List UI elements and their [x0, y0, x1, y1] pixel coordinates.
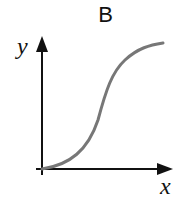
x-axis-arrow-icon [157, 163, 173, 175]
y-axis [36, 36, 48, 175]
plot-area [0, 0, 183, 200]
sigmoid-curve [42, 43, 163, 169]
y-axis-arrow-icon [36, 36, 48, 52]
